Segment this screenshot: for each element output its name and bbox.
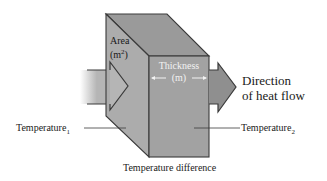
area-unit-open: (m [110, 49, 121, 60]
temperature2-subscript: 2 [291, 128, 295, 136]
thickness-unit-text: (m) [172, 72, 186, 83]
temperature-difference-text: Temperature difference [123, 162, 216, 173]
thickness-text: Thickness [159, 60, 200, 71]
temperature2-text: Temperature [241, 122, 291, 133]
temperature2-label: Temperature2 [241, 123, 295, 136]
direction-line2: of heat flow [242, 88, 305, 103]
temperature1-text: Temperature [16, 122, 66, 133]
temperature1-subscript: 1 [66, 128, 70, 136]
temperature-difference-label: Temperature difference [123, 163, 216, 173]
area-unit-close: ) [125, 49, 128, 60]
thickness-unit-label: (m) [152, 73, 206, 83]
direction-line1: Direction [242, 73, 305, 88]
direction-label: Direction of heat flow [242, 73, 305, 103]
area-label: Area [110, 36, 129, 46]
temperature1-label: Temperature1 [16, 123, 70, 136]
thickness-label: Thickness [152, 61, 206, 71]
area-unit-label: (m2) [110, 49, 128, 60]
area-text: Area [110, 35, 129, 46]
outgoing-heat-arrow [209, 63, 236, 112]
